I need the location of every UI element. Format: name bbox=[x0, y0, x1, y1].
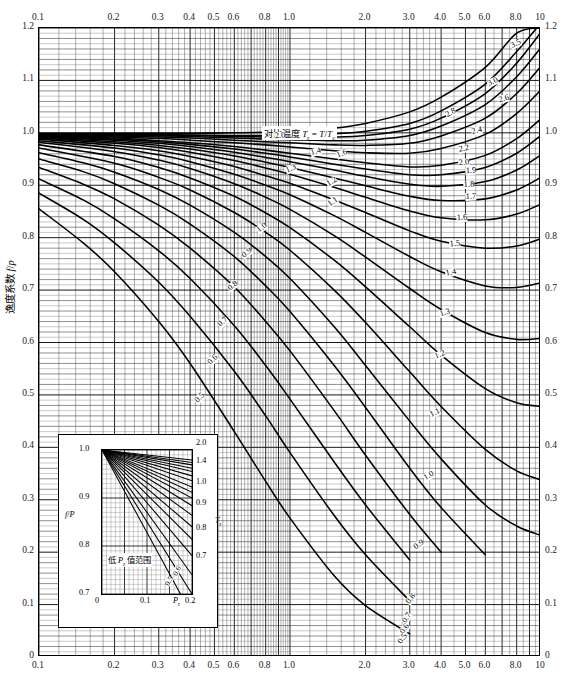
inset-isotherm bbox=[102, 450, 180, 594]
y-tick-right: 0.7 bbox=[545, 284, 557, 294]
x-tick-top: 2.0 bbox=[359, 13, 371, 23]
y-tick-right: 1.2 bbox=[545, 22, 557, 32]
x-tick-top: 0.8 bbox=[259, 13, 271, 23]
inset-isotherm bbox=[102, 450, 192, 515]
x-tick-bottom: 3.0 bbox=[403, 661, 415, 671]
inset-y-tick: 1.0 bbox=[79, 445, 89, 453]
inset-tr-label: 0.7 bbox=[196, 552, 206, 560]
x-tick-top: 0.5 bbox=[208, 13, 220, 23]
x-tick-bottom: 0.5 bbox=[208, 661, 220, 671]
inset-x-title: Pr bbox=[173, 597, 180, 608]
isotherm-curve bbox=[39, 32, 540, 137]
y-tick-left: 0.6 bbox=[22, 337, 34, 347]
x-tick-bottom: 0.8 bbox=[259, 661, 271, 671]
y-tick-left: 0.3 bbox=[22, 494, 34, 504]
inset-tr-axis-title: Tr bbox=[215, 517, 222, 528]
x-tick-top: 0.2 bbox=[108, 13, 120, 23]
curve-label-right: 1.8 bbox=[463, 180, 475, 189]
x-tick-top: 10 bbox=[535, 13, 545, 23]
curve-label-right: 1.6 bbox=[456, 213, 468, 222]
x-tick-top: 0.4 bbox=[183, 13, 195, 23]
y-tick-right: 0 bbox=[545, 651, 550, 661]
inset-x-tick: 0.1 bbox=[140, 597, 150, 605]
y-tick-right: 0.6 bbox=[545, 337, 557, 347]
y-tick-left: 0.7 bbox=[22, 284, 34, 294]
y-tick-left: 0.5 bbox=[22, 389, 34, 399]
y-tick-left: 1.1 bbox=[22, 74, 34, 84]
inset-note: 低 Pr 值范围 bbox=[107, 553, 152, 567]
x-tick-bottom: 1.0 bbox=[283, 661, 295, 671]
inset-x-tick: 0.2 bbox=[185, 597, 195, 605]
inset-tr-label: 2.0 bbox=[196, 439, 206, 447]
y-tick-left: 0 bbox=[29, 651, 34, 661]
x-tick-top: 1.0 bbox=[283, 13, 295, 23]
inset-y-tick: 0.9 bbox=[79, 493, 89, 501]
inset-low-pr-chart: 低 Pr 值范围 0.70.80.91.000.10.22.01.41.00.9… bbox=[58, 434, 218, 628]
y-tick-left: 0.4 bbox=[22, 441, 34, 451]
y-tick-left: 0.1 bbox=[22, 599, 34, 609]
x-tick-bottom: 2.0 bbox=[359, 661, 371, 671]
x-tick-top: 4.0 bbox=[434, 13, 446, 23]
x-tick-top: 6.0 bbox=[478, 13, 490, 23]
y-tick-right: 0.2 bbox=[545, 546, 557, 556]
curve-label-right: 1.7 bbox=[465, 193, 477, 202]
x-tick-bottom: 4.0 bbox=[434, 661, 446, 671]
x-tick-bottom: 0.1 bbox=[32, 661, 44, 671]
x-tick-bottom: 0.2 bbox=[108, 661, 120, 671]
y-tick-right: 1.1 bbox=[545, 74, 557, 84]
isotherm-curve bbox=[39, 28, 540, 133]
inset-tr-label: 1.4 bbox=[196, 457, 206, 465]
x-tick-top: 5.0 bbox=[459, 13, 471, 23]
y-tick-right: 0.5 bbox=[545, 389, 557, 399]
x-tick-top: 0.3 bbox=[152, 13, 164, 23]
x-tick-bottom: 0.3 bbox=[152, 661, 164, 671]
curve-label-top: 2.0 bbox=[274, 131, 286, 140]
inset-y-tick: 0.8 bbox=[79, 541, 89, 549]
inset-y-title: f/P bbox=[65, 511, 75, 519]
x-tick-top: 0.6 bbox=[227, 13, 239, 23]
y-axis-title: 逸度系数 f/p bbox=[2, 300, 17, 314]
y-tick-left: 0.8 bbox=[22, 232, 34, 242]
y-tick-left: 0.9 bbox=[22, 179, 34, 189]
x-tick-bottom: 0.4 bbox=[183, 661, 195, 671]
y-tick-right: 1.0 bbox=[545, 127, 557, 137]
y-tick-right: 0.3 bbox=[545, 494, 557, 504]
x-tick-top: 8.0 bbox=[510, 13, 522, 23]
inset-tr-label: 1.0 bbox=[196, 478, 206, 486]
inset-isotherm bbox=[102, 450, 192, 527]
x-tick-bottom: 5.0 bbox=[459, 661, 471, 671]
curve-label-right: 1.5 bbox=[449, 239, 461, 249]
curve-label-right: 1.9 bbox=[465, 167, 477, 176]
fugacity-coefficient-chart: 逸度系数 f/p 对比温度 Tr = T/Tc 低 Pr 值范围 0.70.80… bbox=[0, 0, 575, 688]
x-tick-bottom: 6.0 bbox=[478, 661, 490, 671]
inset-tr-label: 0.9 bbox=[196, 499, 206, 507]
inset-y-tick: 0.7 bbox=[79, 589, 89, 597]
y-tick-left: 1.0 bbox=[22, 127, 34, 137]
y-tick-right: 0.1 bbox=[545, 599, 557, 609]
inset-x-tick: 0 bbox=[95, 597, 99, 605]
y-tick-right: 0.8 bbox=[545, 232, 557, 242]
inset-tr-label: 0.8 bbox=[196, 524, 206, 532]
x-tick-bottom: 8.0 bbox=[510, 661, 522, 671]
y-tick-left: 1.2 bbox=[22, 22, 34, 32]
y-tick-left: 0.2 bbox=[22, 546, 34, 556]
x-tick-bottom: 10 bbox=[535, 661, 545, 671]
x-tick-bottom: 0.6 bbox=[227, 661, 239, 671]
x-tick-top: 3.0 bbox=[403, 13, 415, 23]
y-tick-right: 0.9 bbox=[545, 179, 557, 189]
y-tick-right: 0.4 bbox=[545, 441, 557, 451]
